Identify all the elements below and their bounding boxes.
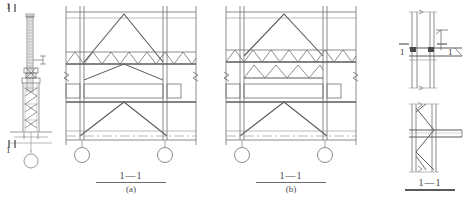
detail-top-marker-left-label: 1 [400,47,405,57]
section-marker-top-left-label: 1 [6,1,11,11]
panel-b-caption-rule [256,182,326,183]
panel-b-caption: 1—1 (b) [256,170,326,194]
panel-a-caption-rule [96,182,166,183]
panel-a-sub-label: (a) [96,184,166,194]
detail-bottom-caption: 1—1 [405,177,455,191]
panel-a-caption: 1—1 (a) [96,170,166,194]
engineering-drawing-canvas [0,0,469,204]
panel-b-sub-label: (b) [256,184,326,194]
panel-b-graphic [224,6,358,163]
detail-top-right-graphic [399,10,462,90]
detail-top-marker-right-label: 1 [448,47,453,57]
panel-a-section-label: 1—1 [96,170,166,181]
drawing-sheet: 1 1 1—1 (a) 1—1 (b) 1 1 1—1 [0,0,469,204]
detail-bottom-caption-rule [405,189,455,191]
section-marker-bottom-left-label: 1 [6,145,11,155]
detail-bottom-right-graphic [409,102,462,172]
tower-crane-elevation-graphic [10,14,52,168]
detail-bottom-section-label: 1—1 [405,177,455,188]
section-marker-ticks-left [9,4,15,148]
panel-a-graphic [64,6,198,163]
panel-b-section-label: 1—1 [256,170,326,181]
